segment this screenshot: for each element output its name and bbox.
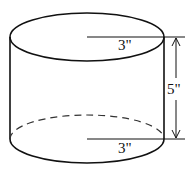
cylinder-diagram: 3" 3" 5" xyxy=(0,0,193,169)
height-label: 5" xyxy=(167,81,181,97)
bottom-radius-label: 3" xyxy=(118,140,132,156)
bottom-ellipse-back xyxy=(10,115,164,139)
bottom-ellipse-front xyxy=(10,139,164,163)
top-radius-label: 3" xyxy=(118,37,132,53)
cylinder-figure: 3" 3" 5" xyxy=(0,0,193,169)
